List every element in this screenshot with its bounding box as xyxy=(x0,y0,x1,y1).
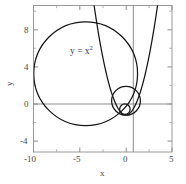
osculating-circle-large xyxy=(34,22,138,126)
y-tick-label-0: -4 xyxy=(20,137,28,146)
x-tick-label-3: 5 xyxy=(169,155,174,164)
osculating-circle-small xyxy=(120,104,131,115)
plot-frame xyxy=(34,6,173,153)
y-minor-ticks xyxy=(34,11,173,122)
x-tick-label-1: -5 xyxy=(73,155,81,164)
osculating-circle-medium xyxy=(112,86,141,115)
x-major-ticks xyxy=(34,6,173,153)
annotation-base: y = x xyxy=(70,46,90,56)
x-tick-label-2: 0 xyxy=(123,155,128,164)
figure-canvas: -10 -5 0 5 -4 0 4 8 x y y = x2 xyxy=(0,0,186,184)
parabola-curve xyxy=(94,5,158,115)
y-axis-title: y xyxy=(5,82,14,87)
y-tick-label-1: 0 xyxy=(24,100,29,109)
x-axis-title: x xyxy=(100,169,105,178)
y-tick-label-3: 8 xyxy=(24,26,29,35)
x-tick-label-0: -10 xyxy=(24,155,36,164)
annotation-exponent: 2 xyxy=(90,44,93,51)
equation-annotation: y = x2 xyxy=(70,47,93,57)
y-tick-label-2: 4 xyxy=(24,63,29,72)
x-minor-ticks xyxy=(57,6,150,153)
